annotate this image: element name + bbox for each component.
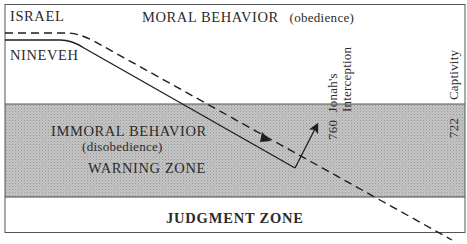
moral-behavior-heading: MORAL BEHAVIOR (obedience) (142, 8, 354, 26)
israel-label: ISRAEL (10, 8, 64, 25)
diagram-canvas (0, 0, 467, 244)
event-722-label: Captivity (447, 50, 461, 100)
event-760-label: 760 Jonah's (326, 73, 340, 140)
event-760-title-line1: Jonah's (325, 73, 340, 112)
moral-behavior-diagram: ISRAEL NINEVEH MORAL BEHAVIOR (obedience… (0, 0, 467, 244)
immoral-behavior-subtitle: (disobedience) (82, 139, 163, 155)
nineveh-label: NINEVEH (10, 47, 79, 64)
event-722-year: 722 (447, 118, 461, 138)
event-760-title-line2: Interception (340, 47, 354, 112)
moral-behavior-subtitle: (obedience) (290, 10, 355, 25)
immoral-behavior-title: IMMORAL BEHAVIOR (51, 123, 207, 140)
warning-zone-label: WARNING ZONE (88, 160, 206, 177)
moral-behavior-title: MORAL BEHAVIOR (142, 9, 279, 25)
event-760-year: 760 (325, 120, 340, 140)
warning-zone-band (5, 104, 465, 197)
judgment-zone-label: JUDGMENT ZONE (166, 210, 304, 227)
